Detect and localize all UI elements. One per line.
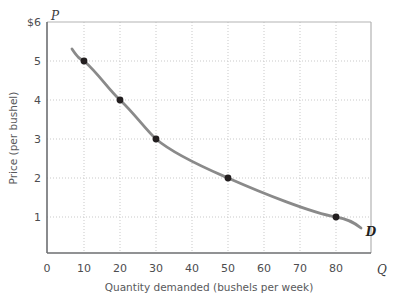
x-tick-label-30: 30 xyxy=(149,262,163,275)
y-tick-label-6: $6 xyxy=(27,16,41,29)
y-axis-title: Price (per bushel) xyxy=(7,92,19,185)
x-tick-label-70: 70 xyxy=(293,262,307,275)
data-point-q80-p1 xyxy=(333,214,340,221)
x-tick-label-0: 0 xyxy=(44,262,51,275)
y-tick-label-4: 4 xyxy=(34,94,41,107)
data-point-q20-p4 xyxy=(117,97,124,104)
y-axis-variable-label: P xyxy=(50,9,60,23)
data-point-q10-p5 xyxy=(81,58,88,65)
data-point-q55-p2 xyxy=(225,175,232,182)
x-tick-label-50: 50 xyxy=(221,262,235,275)
plot-background xyxy=(47,22,371,253)
x-axis-title: Quantity demanded (bushels per week) xyxy=(105,281,313,293)
chart-canvas: D P Q $6 5 4 3 2 1 0 10 20 30 40 50 60 7… xyxy=(0,0,403,302)
x-tick-label-20: 20 xyxy=(113,262,127,275)
y-tick-label-5: 5 xyxy=(34,55,41,68)
x-tick-label-60: 60 xyxy=(257,262,271,275)
x-tick-label-80: 80 xyxy=(329,262,343,275)
x-axis-variable-label: Q xyxy=(377,263,387,277)
y-tick-label-3: 3 xyxy=(34,133,41,146)
demand-curve-figure: D P Q $6 5 4 3 2 1 0 10 20 30 40 50 60 7… xyxy=(0,0,403,302)
demand-curve-label: D xyxy=(365,225,377,239)
x-tick-label-40: 40 xyxy=(185,262,199,275)
y-tick-label-2: 2 xyxy=(34,172,41,185)
x-tick-label-10: 10 xyxy=(77,262,91,275)
data-point-q35-p3 xyxy=(153,136,160,143)
y-tick-label-1: 1 xyxy=(34,211,41,224)
